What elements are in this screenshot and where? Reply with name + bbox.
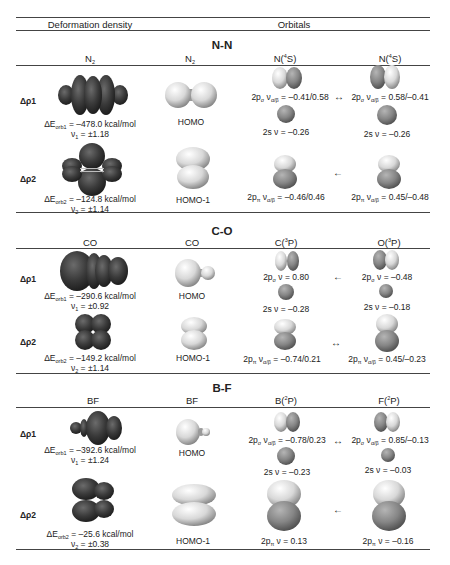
- atomic-2p-pi-orbital: [266, 480, 302, 532]
- column-orbital-molecule: BF: [186, 396, 198, 406]
- orbital-value: 2s ν = –0.03: [365, 466, 412, 475]
- orbital-value: 2s ν = –0.28: [263, 305, 310, 314]
- orbital-value: 2pσ να/β = –0.78/0.23: [248, 436, 325, 447]
- column-atom-b: N(4S): [379, 54, 402, 64]
- deformation-density-isosurface: [75, 314, 111, 350]
- mo-label: HOMO: [178, 118, 204, 127]
- column-rule: [16, 248, 430, 249]
- atomic-2p-pi-orbital: [374, 314, 400, 352]
- atomic-2p-pi-orbital: [371, 480, 407, 532]
- eigenvalue-label: ν1 = ±0.92: [71, 302, 109, 313]
- deformation-density-isosurface: [72, 478, 114, 522]
- orbital-value: 2pπ να/β = 0.45/–0.48: [351, 193, 429, 204]
- mo-label: HOMO: [179, 449, 205, 458]
- section-title: C-O: [211, 226, 232, 238]
- row-label: Δρ2: [20, 175, 36, 184]
- table-top-rule: [16, 17, 430, 18]
- atomic-2p-sigma-orbital: [370, 64, 400, 90]
- eigenvalue-label: ν2 = ±1.14: [71, 205, 109, 216]
- column-density-molecule: CO: [83, 238, 97, 248]
- eigenvalue-label: ν1 = ±1.18: [71, 130, 109, 141]
- atomic-2p-sigma-orbital: [272, 66, 302, 90]
- homo-orbital-isosurface: [176, 418, 212, 446]
- atomic-2p-sigma-orbital: [373, 249, 399, 271]
- column-density-molecule: N2: [85, 54, 95, 66]
- row-label: Δρ2: [20, 511, 36, 520]
- orbital-value: 2s ν = –0.23: [264, 468, 311, 477]
- deformation-density-isosurface: [70, 410, 122, 446]
- atomic-2p-pi-orbital: [273, 318, 297, 350]
- column-rule: [16, 407, 430, 408]
- atomic-2p-sigma-orbital: [274, 411, 300, 433]
- orbital-value: 2pσ ν = –0.48: [362, 273, 412, 284]
- row-label: Δρ1: [20, 430, 36, 439]
- orbital-value: 2pπ ν = –0.16: [363, 537, 414, 548]
- column-atom-a: B(2P): [275, 396, 297, 406]
- interaction-arrow: ←: [333, 505, 343, 515]
- interaction-arrow: ↔: [334, 92, 344, 102]
- orbital-value: 2pπ να/β = –0.46/0.46: [247, 193, 325, 204]
- section-title: N-N: [212, 40, 232, 52]
- atomic-2s-orbital: [380, 447, 396, 463]
- eigenvalue-label: ν1 = ±1.24: [71, 456, 109, 467]
- orbital-value: 2pσ να/β = 0.58/–0.41: [351, 93, 428, 104]
- orbital-value: 2s ν = –0.18: [364, 303, 411, 312]
- column-atom-b: O(3P): [377, 238, 400, 248]
- section-rule: [16, 212, 430, 213]
- header-rule: [16, 30, 430, 31]
- atomic-2p-sigma-orbital: [275, 250, 299, 272]
- interaction-arrow: ↔: [331, 338, 341, 348]
- mo-label: HOMO: [179, 292, 205, 301]
- column-density-molecule: BF: [87, 396, 99, 406]
- orbital-value: 2s ν = –0.26: [263, 128, 310, 137]
- atomic-2s-orbital: [378, 283, 394, 299]
- orbital-value: 2pπ να/β = 0.45/–0.23: [348, 355, 426, 366]
- column-orbital-molecule: N2: [185, 54, 195, 66]
- orbital-value: 2pσ να/β = –0.41/0.58: [251, 93, 328, 104]
- atomic-2s-orbital: [276, 446, 296, 466]
- homo-1-orbital-isosurface: [171, 484, 217, 526]
- interaction-arrow: ↔: [333, 436, 343, 446]
- orbital-value: 2s ν = –0.26: [364, 130, 411, 139]
- homo-1-orbital-isosurface: [180, 316, 208, 350]
- interaction-arrow: ←: [333, 168, 343, 178]
- atomic-2p-pi-orbital: [376, 155, 402, 189]
- atomic-2p-sigma-orbital: [374, 411, 400, 433]
- homo-orbital-isosurface: [165, 80, 217, 110]
- atomic-2p-pi-orbital: [272, 155, 298, 189]
- section-rule: [16, 373, 430, 374]
- column-atom-b: F(2P): [378, 396, 400, 406]
- row-label: Δρ1: [20, 275, 36, 284]
- orbital-value: 2pσ ν = 0.80: [263, 273, 309, 284]
- mo-label: HOMO-1: [176, 537, 210, 546]
- mo-label: HOMO-1: [176, 354, 210, 363]
- row-label: Δρ2: [20, 338, 36, 347]
- deformation-density-isosurface: [60, 250, 128, 292]
- orbital-value: 2pπ να/β = –0.74/0.21: [243, 355, 321, 366]
- interaction-arrow: ←: [333, 272, 343, 282]
- column-atom-a: N(4S): [274, 54, 297, 64]
- orbital-value: 2pπ ν = 0.13: [261, 537, 307, 548]
- header-deformation-density: Deformation density: [48, 20, 132, 30]
- mo-label: HOMO-1: [176, 196, 210, 205]
- header-orbitals: Orbitals: [278, 20, 311, 30]
- orbital-value: 2pσ να/β = 0.85/–0.13: [351, 436, 428, 447]
- atomic-2s-orbital: [376, 104, 398, 126]
- section-title: B-F: [212, 383, 231, 395]
- column-orbital-molecule: CO: [185, 238, 199, 248]
- row-label: Δρ1: [20, 97, 36, 106]
- column-atom-a: C(3P): [275, 238, 298, 248]
- atomic-2s-orbital: [276, 104, 296, 124]
- atomic-2s-orbital: [277, 283, 295, 301]
- deformation-density-isosurface: [58, 72, 128, 118]
- deformation-density-isosurface: [62, 142, 122, 196]
- column-rule: [16, 65, 430, 66]
- homo-orbital-isosurface: [175, 258, 217, 288]
- table-bottom-rule: [16, 549, 430, 550]
- homo-1-orbital-isosurface: [175, 147, 211, 189]
